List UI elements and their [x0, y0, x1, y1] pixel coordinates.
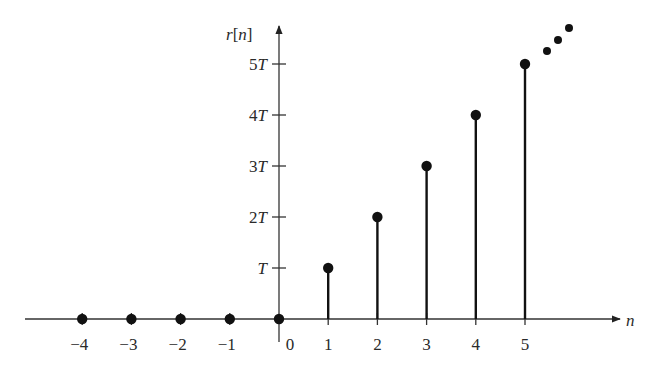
x-tick-label: 3: [422, 335, 431, 354]
stem-marker: [471, 110, 481, 120]
y-tick-label: 4T: [249, 106, 269, 125]
y-tick-label: 3T: [249, 157, 269, 176]
y-tick-label: 2T: [249, 208, 269, 227]
x-tick-label: 2: [373, 335, 382, 354]
x-tick-label: −4: [70, 335, 89, 354]
stem-marker: [126, 314, 136, 324]
stem-marker: [77, 314, 87, 324]
y-label-n: n: [238, 25, 247, 44]
stem-marker: [323, 263, 333, 273]
stem-marker: [520, 59, 530, 69]
x-tick-label: 0: [286, 335, 295, 354]
x-axis-label: n: [626, 311, 635, 330]
continuation-dots: [543, 24, 573, 55]
x-tick-label: 1: [324, 335, 333, 354]
x-tick-label: 5: [521, 335, 530, 354]
svg-text:r[n]: r[n]: [226, 25, 252, 44]
stem-marker: [175, 314, 185, 324]
stem-marker: [372, 212, 382, 222]
stems: [77, 59, 530, 324]
stem-plot: n r[n] T2T3T4T5T −4−3−2−1012345: [0, 0, 652, 378]
stem-marker: [274, 314, 284, 324]
x-tick-label: −3: [119, 335, 137, 354]
y-tick-label: 5T: [249, 55, 269, 74]
x-tick-label: 4: [472, 335, 481, 354]
x-tick-label: −1: [218, 335, 236, 354]
y-tick-label: T: [258, 259, 269, 278]
stem-marker: [421, 161, 431, 171]
stem-marker: [225, 314, 235, 324]
y-label-close: ]: [247, 25, 253, 44]
y-axis-label: r[n]: [226, 25, 252, 44]
y-ticks: T2T3T4T5T: [249, 55, 286, 278]
x-tick-label: −2: [169, 335, 187, 354]
